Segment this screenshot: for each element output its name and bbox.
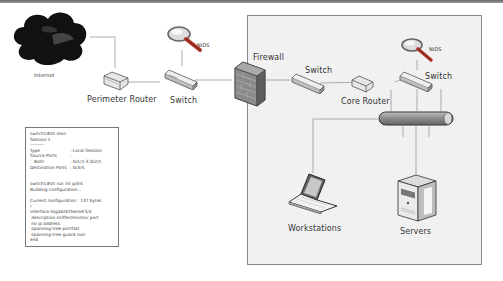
config-line: Current configuration : 137 bytes bbox=[30, 198, 114, 204]
switch-inner-label: Switch bbox=[305, 66, 332, 75]
switch-inner-icon[interactable] bbox=[290, 72, 326, 98]
firewall-icon[interactable] bbox=[233, 60, 267, 112]
perimeter-router-icon[interactable] bbox=[100, 70, 132, 96]
switch-outer-icon[interactable] bbox=[163, 68, 199, 94]
workstations-label: Workstations bbox=[288, 224, 341, 233]
config-value: : Local Session bbox=[70, 148, 102, 154]
workstation-laptop-icon[interactable] bbox=[287, 172, 341, 218]
switch-config-panel: switch1#sh mon Session 1 --------- Type:… bbox=[25, 127, 119, 247]
switch-core-label: Switch bbox=[425, 72, 452, 81]
internet-label: Internet bbox=[34, 72, 55, 78]
config-value: : Gi3/4 bbox=[70, 165, 84, 171]
config-key: Destination Ports bbox=[30, 165, 70, 171]
internet-cloud-icon bbox=[8, 5, 92, 73]
switch-outer-label: Switch bbox=[170, 96, 197, 105]
core-router-icon[interactable] bbox=[348, 74, 376, 98]
nids-inner-label: NIDS bbox=[429, 46, 442, 52]
servers-label: Servers bbox=[400, 227, 431, 236]
nids-magnifier-icon bbox=[400, 36, 436, 68]
server-tower-icon[interactable] bbox=[396, 173, 438, 227]
core-router-label: Core Router bbox=[341, 97, 390, 106]
firewall-label: Firewall bbox=[253, 53, 284, 62]
network-bus-icon bbox=[378, 111, 456, 131]
perimeter-router-label: Perimeter Router bbox=[87, 95, 157, 104]
config-line: end bbox=[30, 237, 114, 243]
nids-outer-label: NIDS bbox=[197, 42, 210, 48]
nids-magnifier-icon bbox=[166, 24, 206, 58]
